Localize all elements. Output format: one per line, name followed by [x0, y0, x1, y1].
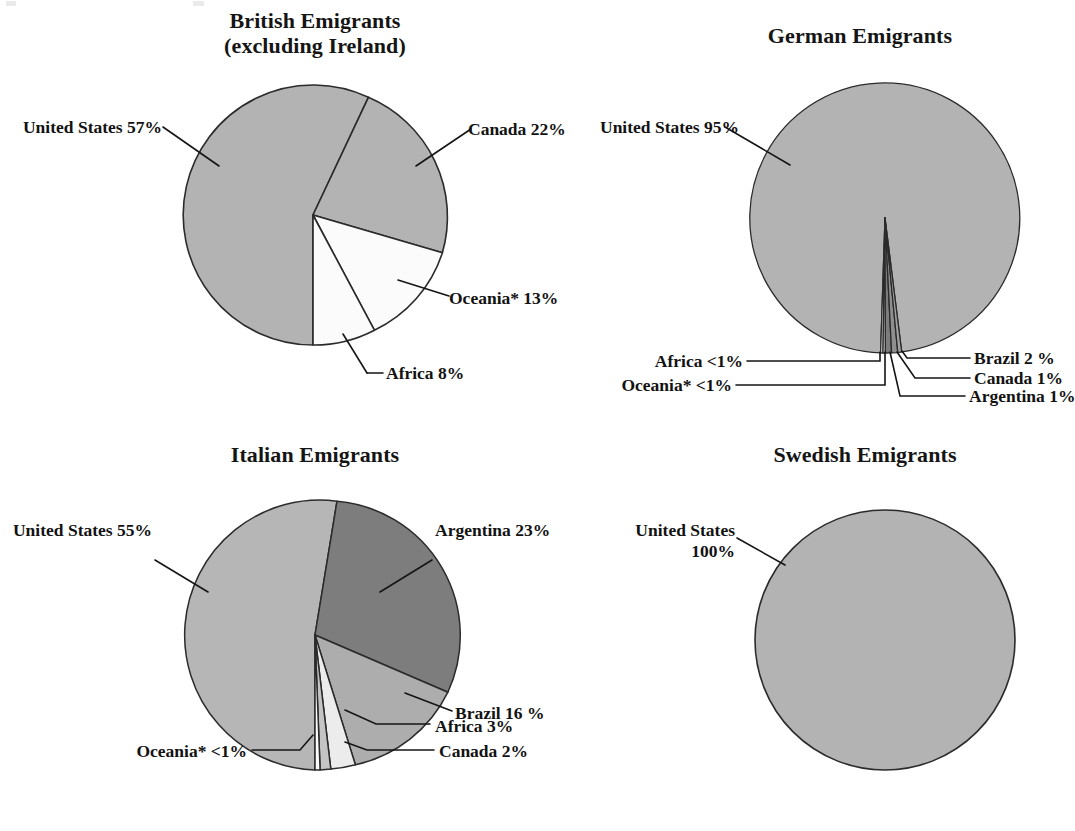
callout-german-canada: Canada 1%	[974, 368, 1063, 388]
leader-united-states	[737, 538, 785, 565]
callout-italian-africa: Africa 3%	[435, 716, 513, 736]
callout-italian-united-states: United States 55%	[0, 520, 152, 540]
slice-united-states	[755, 510, 1015, 770]
pie-swedish	[540, 420, 1063, 831]
callout-british-africa: Africa 8%	[386, 363, 464, 383]
chart-panel-italian: Italian Emigrants	[0, 420, 540, 831]
pie-italian	[0, 420, 540, 831]
callout-italian-oceania: Oceania* <1%	[85, 741, 247, 761]
leader-canada	[897, 352, 970, 378]
pie-british	[0, 0, 540, 420]
callout-italian-argentina: Argentina 23%	[435, 520, 550, 540]
leader-africa	[343, 334, 367, 373]
callout-british-united-states: United States 57%	[0, 117, 162, 137]
callout-german-oceania: Oceania* <1%	[560, 375, 732, 395]
leader-oceania	[736, 352, 885, 385]
callout-german-africa: Africa <1%	[605, 351, 743, 371]
callout-swedish-united-states: United States 100%	[585, 520, 735, 562]
leader-brazil	[902, 351, 970, 358]
callout-german-argentina: Argentina 1%	[969, 386, 1075, 406]
callout-german-brazil: Brazil 2 %	[974, 348, 1055, 368]
leader-africa	[747, 352, 880, 361]
chart-panel-swedish: Swedish Emigrants United States 100%	[540, 420, 1063, 831]
callout-german-united-states: United States 95%	[600, 117, 739, 137]
slice-united-states	[185, 500, 337, 770]
callout-italian-canada: Canada 2%	[439, 741, 528, 761]
chart-panel-german: German Emigrants	[540, 0, 1063, 420]
chart-panel-british: British Emigrants (excluding Ireland)	[0, 0, 540, 420]
